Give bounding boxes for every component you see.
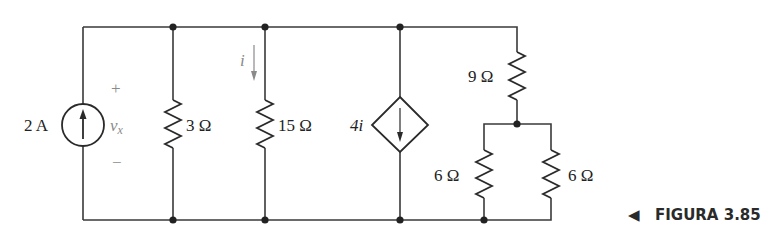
node-dot [261, 216, 268, 223]
voltage-label: vx [110, 116, 124, 137]
top-wire [83, 27, 517, 52]
node-dot [261, 23, 268, 30]
resistor-15ohm-icon [257, 100, 273, 148]
resistor-3ohm-icon [165, 100, 181, 148]
bottom-wire [83, 198, 551, 220]
resistor-6ohm-right-label: 6 Ω [568, 166, 593, 185]
current-i-label: i [240, 51, 245, 70]
node-dot [169, 23, 176, 30]
circuit-diagram: 2 A + vx − 3 Ω 15 Ω i 4i 9 Ω 6 Ω 6 Ω ◀ F… [0, 0, 778, 238]
voltage-plus-sign: + [111, 79, 121, 98]
dep-source-arrow-icon [397, 132, 403, 142]
current-i-arrow-icon [251, 71, 257, 81]
resistor-6ohm-left-icon [476, 150, 492, 198]
node-dot [396, 23, 403, 30]
resistor-9ohm-icon [509, 52, 525, 100]
resistor-6ohm-right-icon [543, 150, 559, 198]
node-dot [396, 216, 403, 223]
source-arrow-head-icon [80, 109, 87, 119]
caption-marker-icon: ◀ [628, 206, 640, 224]
resistor-9ohm-label: 9 Ω [468, 67, 493, 86]
figure-caption: FIGURA 3.85 [655, 206, 761, 224]
node-dot [169, 216, 176, 223]
voltage-minus-sign: − [112, 153, 122, 172]
dependent-source-label: 4i [350, 116, 364, 135]
node-dot [513, 120, 520, 127]
current-source-label: 2 A [24, 116, 49, 135]
resistor-3ohm-label: 3 Ω [186, 116, 211, 135]
circuit-figure: 2 A + vx − 3 Ω 15 Ω i 4i 9 Ω 6 Ω 6 Ω ◀ F… [0, 0, 778, 238]
resistor-15ohm-label: 15 Ω [278, 116, 312, 135]
node-dot [480, 216, 487, 223]
resistor-6ohm-left-label: 6 Ω [434, 166, 459, 185]
